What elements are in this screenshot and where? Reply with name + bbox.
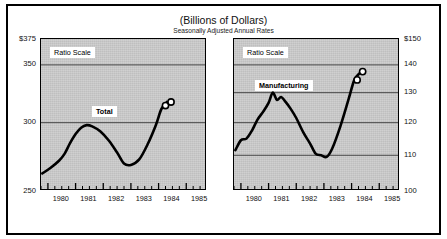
- y-tick-label: 300: [2, 117, 36, 126]
- chart-title: (Billions of Dollars): [0, 14, 447, 26]
- y-tick-label: 130: [404, 87, 438, 96]
- x-tick-label: 1980: [47, 194, 75, 203]
- panel-total: Ratio Scale Total: [40, 38, 206, 190]
- y-tick-label: $150: [404, 34, 438, 43]
- y-tick-label: 110: [404, 150, 438, 159]
- ratio-scale-label-manufacturing: Ratio Scale: [243, 47, 288, 58]
- ratio-scale-label-total: Ratio Scale: [50, 47, 95, 58]
- y-tick-label: $375: [2, 34, 36, 43]
- y-tick-label: 120: [404, 117, 438, 126]
- x-tick-label: 1981: [74, 194, 102, 203]
- panel-manufacturing: Ratio Scale Manufacturing: [233, 38, 399, 190]
- endpoint-marker: [354, 77, 360, 83]
- x-tick-label: 1980: [240, 194, 268, 203]
- y-tick-label: 100: [404, 186, 438, 195]
- plot-svg-manufacturing: [234, 39, 399, 190]
- plot-area-total: [40, 38, 206, 190]
- plot-area-manufacturing: [233, 38, 399, 190]
- x-tick-label: 1984: [157, 194, 185, 203]
- x-tick-label: 1985: [185, 194, 213, 203]
- y-tick-label: 350: [2, 59, 36, 68]
- x-tick-label: 1985: [378, 194, 406, 203]
- x-tick-label: 1982: [295, 194, 323, 203]
- x-tick-label: 1983: [130, 194, 158, 203]
- chart-figure: (Billions of Dollars) Seasonally Adjuste…: [0, 0, 447, 239]
- endpoint-marker: [168, 99, 174, 105]
- series-label-manufacturing: Manufacturing: [255, 80, 313, 91]
- series-label-total: Total: [92, 106, 117, 117]
- y-tick-label: 140: [404, 59, 438, 68]
- x-tick-label: 1984: [350, 194, 378, 203]
- chart-subtitle: Seasonally Adjusted Annual Rates: [0, 27, 447, 34]
- x-tick-label: 1981: [267, 194, 295, 203]
- endpoint-marker: [360, 69, 366, 75]
- y-tick-label: 250: [2, 186, 36, 195]
- plot-svg-total: [41, 39, 206, 190]
- x-tick-label: 1982: [102, 194, 130, 203]
- x-tick-label: 1983: [323, 194, 351, 203]
